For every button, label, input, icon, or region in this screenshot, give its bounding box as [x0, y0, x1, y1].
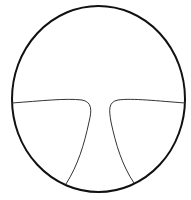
diagram-canvas	[0, 0, 191, 200]
circle-outline	[12, 6, 185, 192]
right-divider-line	[110, 99, 185, 183]
diagram-svg	[0, 0, 191, 200]
left-divider-line	[12, 99, 91, 184]
